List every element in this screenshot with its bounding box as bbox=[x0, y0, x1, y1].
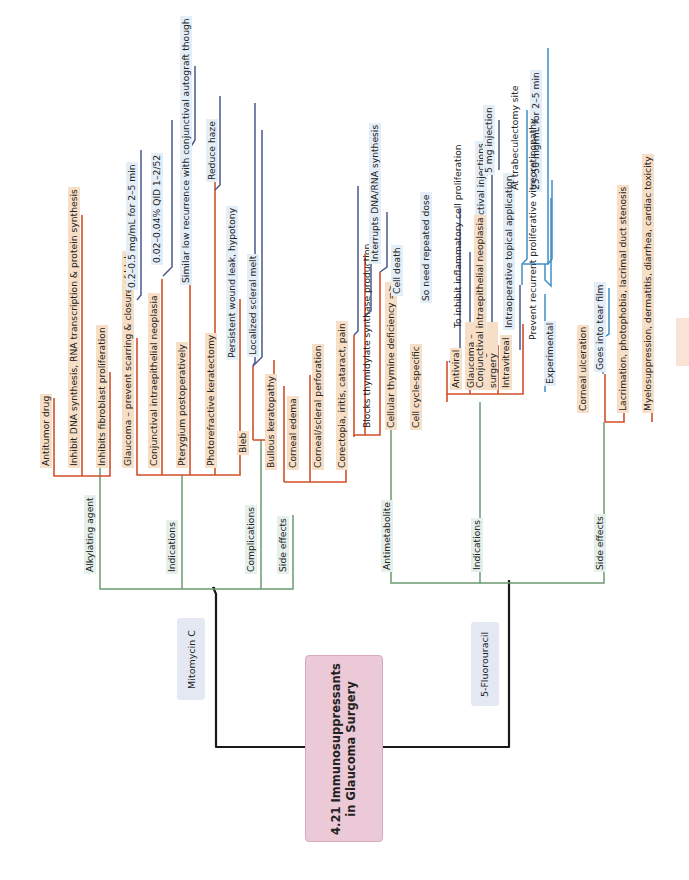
item-blocks-thymidylate: Blocks thymidylate synthase production bbox=[361, 242, 373, 430]
detail-interrupts-dna: Interrupts DNA/RNA synthesis bbox=[369, 123, 381, 264]
item-photorefractive: Photorefractive keratectomy bbox=[205, 333, 217, 468]
title-line-1: 4.21 Immunosuppressants bbox=[329, 663, 343, 835]
detail-reduce-haze: Reduce haze bbox=[206, 119, 218, 182]
drug-node-5fu: 5-Fluorouracil bbox=[471, 622, 499, 706]
drug-node-mitomycin: Mitomycin C bbox=[177, 618, 205, 700]
category-5fu-side-effects: Side effects bbox=[594, 514, 606, 572]
item-myelosuppression: Myelosuppression, dermatitis, diarrhea, … bbox=[642, 154, 654, 413]
item-5fu-conjunctival-neoplasia: Conjunctival intraepithelial neoplasia bbox=[474, 215, 486, 390]
detail-experimental: Experimental bbox=[544, 321, 556, 386]
category-antimetabolite: Antimetabolite bbox=[381, 500, 393, 572]
drug-label-mitomycin: Mitomycin C bbox=[186, 630, 197, 689]
drug-label-5fu: 5-Fluorouracil bbox=[480, 631, 491, 696]
title-box: 4.21 Immunosuppressantsin Glaucoma Surge… bbox=[305, 655, 383, 842]
item-thymine-deficiency: Cellular thymine deficiency => bbox=[385, 282, 397, 430]
detail-intraop-topical: Intraoperative topical application bbox=[503, 173, 515, 330]
mind-map: 4.21 Immunosuppressantsin Glaucoma Surge… bbox=[0, 0, 689, 880]
category-side-effects: Side effects bbox=[277, 516, 289, 574]
detail-mmc-dose: 0.2–0.5 mg/mL for 2–5 min bbox=[126, 162, 138, 290]
title-line-2: in Glaucoma Surgery bbox=[344, 681, 358, 816]
detail-cell-death: Cell death bbox=[391, 245, 403, 296]
item-corneal-ulceration: Corneal ulceration bbox=[577, 325, 589, 413]
item-corneal-edema: Corneal edema bbox=[287, 396, 299, 470]
detail-tear-film: Goes into tear film bbox=[594, 283, 606, 373]
item-antiviral: Antiviral bbox=[450, 348, 462, 390]
decorative-smudge bbox=[676, 318, 689, 366]
detail-5mg-injection: 5 mg injection bbox=[483, 105, 495, 175]
item-corectopia: Corectopia, iritis, cataract, pain bbox=[336, 321, 348, 470]
item-corneal-scleral-perforation: Corneal/scleral perforation bbox=[312, 344, 324, 470]
detail-repeated-dose: So need repeated dose bbox=[420, 193, 432, 304]
category-alkylating-agent: Alkylating agent bbox=[84, 495, 96, 574]
category-indications: Indications bbox=[166, 520, 178, 574]
category-5fu-indications: Indications bbox=[471, 518, 483, 572]
item-intravitreal: Intravitreal bbox=[500, 335, 512, 390]
item-cell-cycle-specific: Cell cycle-specific bbox=[410, 344, 422, 430]
item-bleb: Bleb bbox=[237, 431, 249, 455]
detail-wound-leak: Persistent wound leak, hypotony bbox=[226, 206, 238, 360]
detail-similar-recurrence: Similar low recurrence with conjunctival… bbox=[180, 16, 192, 285]
detail-prevent-pvr: Prevent recurrent proliferative vitreore… bbox=[527, 116, 539, 342]
item-bullous-keratopathy: Bullous keratopathy bbox=[265, 374, 277, 470]
item-lacrimation: Lacrimation, photophobia, lacrimal duct … bbox=[617, 185, 629, 413]
item-antitumor-drug: Antitumor drug bbox=[40, 394, 52, 468]
item-pterygium: Pterygium postoperatively bbox=[176, 342, 188, 468]
item-inhibits-fibroblast: Inhibits fibroblast proliferation bbox=[96, 325, 108, 468]
item-conjunctival-neoplasia: Conjunctival intraepithelial neoplasia bbox=[148, 293, 160, 468]
detail-inhibit-inflammatory: To inhibit inflammatory cell proliferati… bbox=[452, 142, 464, 330]
item-inhibit-dna-synthesis: Inhibit DNA synthesis, RNA transcription… bbox=[68, 187, 80, 468]
detail-trabeculectomy-site: At trabeculectomy site bbox=[509, 84, 521, 192]
category-complications: Complications bbox=[245, 505, 257, 574]
detail-qid: 0.02–0.04% QID 1–2/52 bbox=[151, 153, 163, 265]
detail-scleral-melt: Localized scleral melt bbox=[247, 254, 259, 357]
